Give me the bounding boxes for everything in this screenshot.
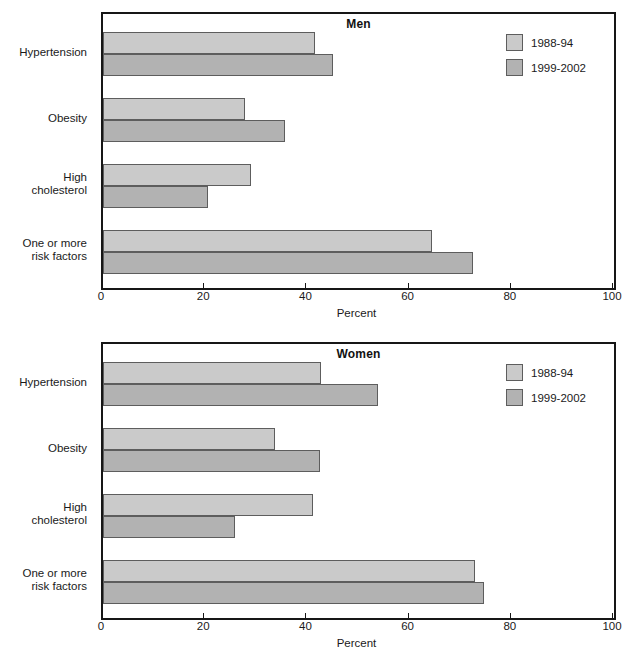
category-label-one-or-more: One or more risk factors [0, 237, 87, 263]
x-tickmark-40 [305, 613, 306, 618]
category-label-hypertension: Hypertension [0, 46, 87, 59]
bar-hypertension-1999-2002 [103, 54, 333, 76]
x-tickmark-20 [203, 283, 204, 288]
bar-high-cholesterol-1999-2002 [103, 516, 235, 538]
category-label-obesity: Obesity [0, 112, 87, 125]
x-tickmark-20 [203, 613, 204, 618]
x-tick-label-20: 20 [197, 290, 210, 302]
bar-one-or-more-risk-factors-1999-2002 [103, 252, 473, 274]
x-tickmark-80 [510, 283, 511, 288]
x-axis-title-men: Percent [101, 307, 612, 319]
plot-area-women: Women 1988-941999-2002 [101, 342, 616, 620]
x-tickmark-0 [101, 613, 102, 618]
category-labels-men: HypertensionObesityHigh cholesterolOne o… [0, 0, 96, 330]
x-tick-label-20: 20 [197, 620, 210, 632]
category-label-obesity: Obesity [0, 442, 87, 455]
x-tick-label-80: 80 [503, 290, 516, 302]
x-tick-label-0: 0 [98, 620, 104, 632]
category-label-high: High cholesterol [0, 501, 87, 527]
bar-one-or-more-risk-factors-1988-94 [103, 560, 475, 582]
legend-label: 1988-94 [531, 37, 573, 49]
x-tick-label-60: 60 [401, 620, 414, 632]
legend-label: 1999-2002 [531, 392, 586, 404]
bar-one-or-more-risk-factors-1999-2002 [103, 582, 484, 604]
x-tickmark-100 [612, 613, 613, 618]
legend-swatch-icon-1999-2002 [506, 59, 523, 76]
bar-obesity-1999-2002 [103, 450, 320, 472]
x-tickmark-0 [101, 283, 102, 288]
x-tick-label-100: 100 [602, 620, 621, 632]
legend-swatch-icon-1988-94 [506, 364, 523, 381]
bar-obesity-1988-94 [103, 428, 275, 450]
legend-item-1999-2002: 1999-2002 [506, 59, 586, 76]
x-tick-label-40: 40 [299, 290, 312, 302]
figure-chd-risk-factors: HypertensionObesityHigh cholesterolOne o… [0, 0, 640, 667]
x-tick-label-40: 40 [299, 620, 312, 632]
category-label-hypertension: Hypertension [0, 376, 87, 389]
category-labels-women: HypertensionObesityHigh cholesterolOne o… [0, 330, 96, 667]
category-label-high: High cholesterol [0, 171, 87, 197]
legend-item-1988-94: 1988-94 [506, 34, 586, 51]
bar-high-cholesterol-1988-94 [103, 494, 313, 516]
bar-obesity-1988-94 [103, 98, 245, 120]
x-tick-labels-men: 020406080100 [101, 290, 612, 306]
bar-hypertension-1988-94 [103, 32, 315, 54]
legend-men: 1988-941999-2002 [506, 34, 586, 76]
x-tick-label-0: 0 [98, 290, 104, 302]
x-tickmark-60 [408, 613, 409, 618]
x-tickmark-100 [612, 283, 613, 288]
legend-item-1988-94: 1988-94 [506, 364, 586, 381]
x-tickmark-60 [408, 283, 409, 288]
plot-area-men: Men 1988-941999-2002 [101, 12, 616, 290]
x-tickmark-80 [510, 613, 511, 618]
bar-high-cholesterol-1988-94 [103, 164, 251, 186]
legend-women: 1988-941999-2002 [506, 364, 586, 406]
legend-label: 1999-2002 [531, 62, 586, 74]
bar-one-or-more-risk-factors-1988-94 [103, 230, 432, 252]
bar-hypertension-1988-94 [103, 362, 321, 384]
legend-swatch-icon-1988-94 [506, 34, 523, 51]
x-axis-title-women: Percent [101, 637, 612, 649]
bar-obesity-1999-2002 [103, 120, 285, 142]
x-tick-label-80: 80 [503, 620, 516, 632]
panel-women: HypertensionObesityHigh cholesterolOne o… [0, 330, 640, 667]
legend-item-1999-2002: 1999-2002 [506, 389, 586, 406]
bar-hypertension-1999-2002 [103, 384, 378, 406]
panel-men: HypertensionObesityHigh cholesterolOne o… [0, 0, 640, 330]
x-tickmark-40 [305, 283, 306, 288]
bar-high-cholesterol-1999-2002 [103, 186, 208, 208]
category-label-one-or-more: One or more risk factors [0, 567, 87, 593]
x-tick-label-60: 60 [401, 290, 414, 302]
legend-swatch-icon-1999-2002 [506, 389, 523, 406]
x-tick-labels-women: 020406080100 [101, 620, 612, 636]
legend-label: 1988-94 [531, 367, 573, 379]
x-tick-label-100: 100 [602, 290, 621, 302]
